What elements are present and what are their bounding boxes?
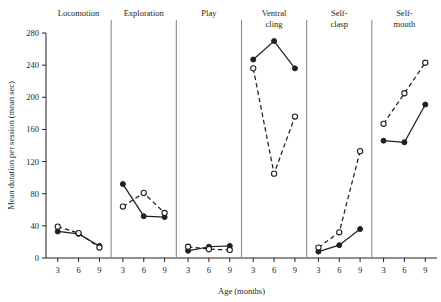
series-line-solid	[123, 184, 165, 217]
y-axis-title: Mean duration per session (mean sec)	[6, 81, 16, 210]
x-axis-title: Age (months)	[218, 286, 265, 296]
data-point-open	[358, 149, 363, 154]
y-tick-label: 80	[31, 189, 40, 199]
data-point-open	[337, 230, 342, 235]
panel-title: Exploration	[124, 8, 165, 18]
panel-title: Locomotion	[58, 8, 100, 18]
y-tick-label: 160	[26, 124, 39, 134]
x-tick-label: 3	[121, 265, 125, 275]
y-tick-label: 0	[35, 253, 39, 263]
data-point-filled	[272, 39, 277, 44]
panel-title: Self-	[331, 8, 348, 18]
x-tick-label: 6	[142, 265, 146, 275]
data-point-filled	[251, 57, 256, 62]
x-tick-label: 3	[56, 265, 60, 275]
data-point-open	[227, 247, 232, 252]
data-point-filled	[358, 227, 363, 232]
data-point-open	[316, 245, 321, 250]
data-point-open	[162, 210, 167, 215]
data-point-open	[402, 91, 407, 96]
x-tick-label: 6	[272, 265, 276, 275]
x-tick-label: 9	[423, 265, 427, 275]
data-point-open	[97, 245, 102, 250]
x-tick-label: 9	[162, 265, 166, 275]
series-line-dashed	[58, 227, 100, 248]
data-point-filled	[292, 66, 297, 71]
data-point-open	[292, 114, 297, 119]
line-chart: 04080120160200240280Mean duration per se…	[0, 0, 441, 302]
x-tick-label: 3	[251, 265, 255, 275]
x-tick-label: 3	[186, 265, 190, 275]
x-tick-label: 6	[207, 265, 211, 275]
x-tick-label: 6	[76, 265, 80, 275]
x-tick-label: 9	[358, 265, 362, 275]
y-tick-label: 240	[26, 60, 39, 70]
series-line-dashed	[253, 68, 295, 173]
panel-title: cling	[266, 19, 284, 29]
data-point-filled	[337, 243, 342, 248]
data-point-open	[423, 60, 428, 65]
panel-title: Ventral	[262, 8, 287, 18]
x-tick-label: 3	[316, 265, 320, 275]
data-point-open	[185, 244, 190, 249]
x-tick-label: 9	[97, 265, 101, 275]
data-point-open	[55, 224, 60, 229]
y-tick-label: 280	[26, 28, 39, 38]
data-point-open	[251, 66, 256, 71]
data-point-open	[271, 171, 276, 176]
data-point-open	[76, 230, 81, 235]
data-point-open	[120, 204, 125, 209]
x-tick-label: 9	[228, 265, 232, 275]
data-point-filled	[141, 214, 146, 219]
data-point-open	[381, 121, 386, 126]
panel-title: Play	[201, 8, 217, 18]
panel-title: mouth	[394, 19, 416, 29]
x-tick-label: 9	[293, 265, 297, 275]
chart-container: 04080120160200240280Mean duration per se…	[0, 0, 441, 302]
y-tick-label: 40	[31, 221, 40, 231]
y-tick-label: 120	[26, 157, 39, 167]
data-point-filled	[120, 182, 125, 187]
data-point-filled	[423, 102, 428, 107]
x-tick-label: 6	[337, 265, 341, 275]
data-point-open	[206, 247, 211, 252]
series-line-solid	[253, 41, 295, 68]
y-tick-label: 200	[26, 92, 39, 102]
data-point-filled	[381, 138, 386, 143]
x-tick-label: 3	[381, 265, 385, 275]
data-point-open	[141, 190, 146, 195]
panel-title: clasp	[331, 19, 348, 29]
x-tick-label: 6	[402, 265, 406, 275]
data-point-filled	[402, 140, 407, 145]
panel-title: Self-	[396, 8, 413, 18]
series-line-solid	[384, 105, 426, 143]
